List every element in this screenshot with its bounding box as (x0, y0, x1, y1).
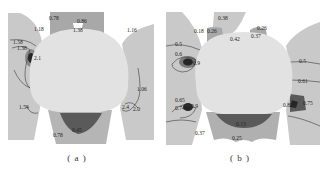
svg-text:1.18: 1.18 (34, 26, 44, 32)
svg-text:0.45: 0.45 (72, 127, 82, 133)
svg-text:0.38: 0.38 (218, 15, 228, 21)
svg-text:0.42: 0.42 (230, 36, 240, 42)
svg-text:0.61: 0.61 (298, 78, 308, 84)
svg-text:1.06: 1.06 (137, 86, 147, 92)
svg-text:1.54: 1.54 (19, 104, 29, 110)
svg-text:2.4: 2.4 (122, 104, 129, 110)
svg-text:0.75: 0.75 (303, 100, 313, 106)
svg-text:0.78: 0.78 (53, 132, 63, 138)
svg-text:0.25: 0.25 (232, 135, 242, 141)
label: 0.78 (49, 15, 59, 21)
svg-text:0.26: 0.26 (257, 25, 267, 31)
svg-text:0.74: 0.74 (175, 105, 185, 111)
svg-text:2.0: 2.0 (133, 106, 140, 112)
contour-plot-b: 0.38 0.18 0.26 0.42 0.26 0.37 0.5 0.6 0.… (162, 0, 324, 150)
svg-text:0.9: 0.9 (193, 60, 200, 66)
caption-b: ( b ) (220, 153, 260, 163)
svg-text:1.38: 1.38 (17, 45, 27, 51)
svg-text:0.37: 0.37 (251, 33, 261, 39)
svg-text:0.5: 0.5 (175, 41, 182, 47)
svg-text:0.86: 0.86 (77, 18, 87, 24)
svg-text:0.26: 0.26 (207, 28, 217, 34)
panel-b: 0.38 0.18 0.26 0.42 0.26 0.37 0.5 0.6 0.… (162, 0, 324, 150)
svg-text:1.16: 1.16 (127, 27, 137, 33)
svg-text:0.82: 0.82 (283, 102, 293, 108)
svg-text:0.13: 0.13 (236, 121, 246, 127)
caption-a: ( a ) (57, 153, 97, 163)
svg-text:0.6: 0.6 (175, 51, 182, 57)
opening-a (30, 29, 129, 113)
svg-text:0.37: 0.37 (195, 130, 205, 136)
svg-text:1.38: 1.38 (73, 27, 83, 33)
svg-text:2.1: 2.1 (34, 55, 41, 61)
svg-text:0.65: 0.65 (175, 97, 185, 103)
svg-text:0.18: 0.18 (194, 28, 204, 34)
svg-text:0.9: 0.9 (191, 103, 198, 109)
opening-b (195, 32, 292, 114)
contour-plot-a: 0.78 0.86 1.18 1.38 1.16 1.58 1.38 2.1 1… (0, 0, 162, 150)
svg-text:0.5: 0.5 (299, 58, 306, 64)
panel-a: 0.78 0.86 1.18 1.38 1.16 1.58 1.38 2.1 1… (0, 0, 162, 150)
